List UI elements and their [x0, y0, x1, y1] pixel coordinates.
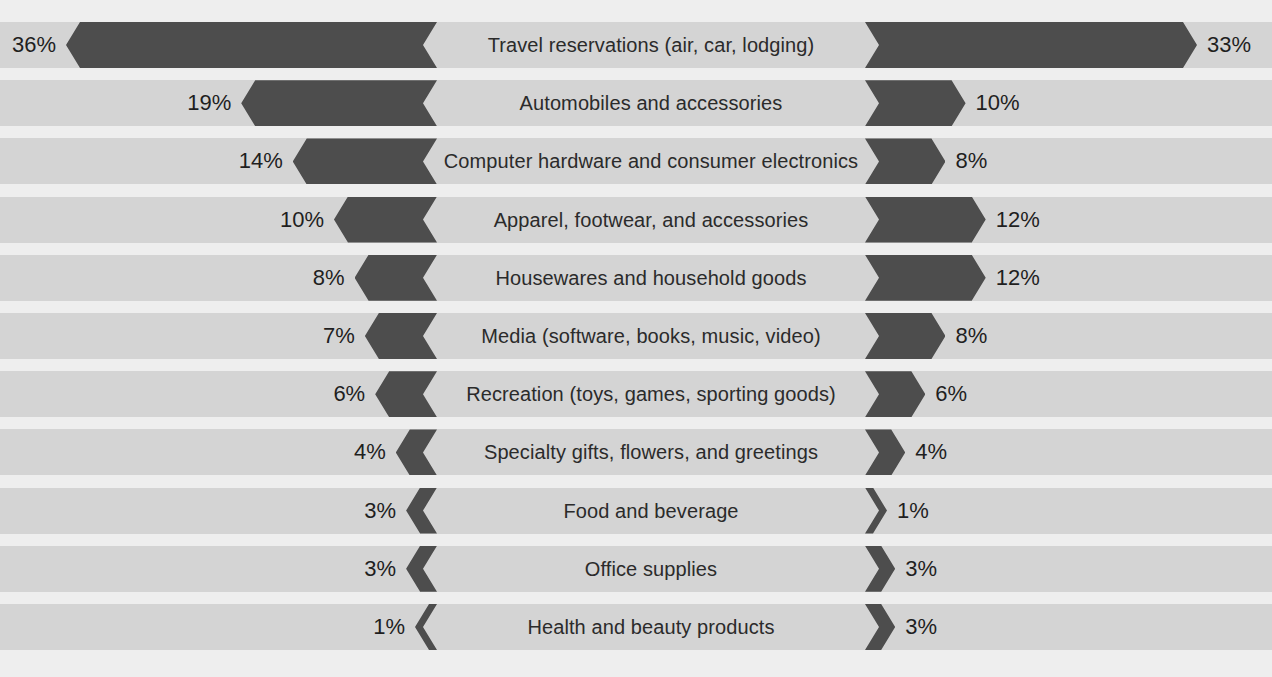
value-label-left: 3% [306, 488, 396, 534]
value-label-right: 10% [976, 80, 1066, 126]
value-label-left: 36% [0, 22, 56, 68]
value-label-right: 3% [905, 546, 995, 592]
bar-right [865, 80, 966, 126]
bar-left [293, 138, 437, 184]
value-label-left: 4% [296, 429, 386, 475]
chart-row: 8%12%Housewares and household goods [0, 255, 1272, 301]
chart-row: 7%8%Media (software, books, music, video… [0, 313, 1272, 359]
category-label: Recreation (toys, games, sporting goods) [437, 371, 865, 417]
value-label-right: 12% [996, 255, 1086, 301]
category-label: Specialty gifts, flowers, and greetings [437, 429, 865, 475]
bar-right [865, 22, 1197, 68]
value-label-left: 14% [193, 138, 283, 184]
category-label: Media (software, books, music, video) [437, 313, 865, 359]
value-label-right: 1% [897, 488, 987, 534]
chart-row: 19%10%Automobiles and accessories [0, 80, 1272, 126]
value-label-left: 6% [275, 371, 365, 417]
category-label: Travel reservations (air, car, lodging) [437, 22, 865, 68]
chart-row: 1%3%Health and beauty products [0, 604, 1272, 650]
value-label-right: 33% [1207, 22, 1272, 68]
bar-left [241, 80, 437, 126]
bar-right [865, 255, 986, 301]
value-label-left: 1% [315, 604, 405, 650]
value-label-left: 8% [255, 255, 345, 301]
value-label-left: 19% [141, 80, 231, 126]
value-label-right: 8% [955, 313, 1045, 359]
value-label-right: 8% [955, 138, 1045, 184]
value-label-left: 10% [234, 197, 324, 243]
category-label: Food and beverage [437, 488, 865, 534]
category-label: Automobiles and accessories [437, 80, 865, 126]
chart-row: 3%3%Office supplies [0, 546, 1272, 592]
category-label: Housewares and household goods [437, 255, 865, 301]
bar-left [334, 197, 437, 243]
bar-left [66, 22, 437, 68]
value-label-right: 4% [915, 429, 1005, 475]
category-label: Apparel, footwear, and accessories [437, 197, 865, 243]
chart-row: 4%4%Specialty gifts, flowers, and greeti… [0, 429, 1272, 475]
tornado-chart: 36%33%Travel reservations (air, car, lod… [0, 0, 1272, 677]
chart-row: 6%6%Recreation (toys, games, sporting go… [0, 371, 1272, 417]
value-label-left: 7% [265, 313, 355, 359]
value-label-left: 3% [306, 546, 396, 592]
category-label: Computer hardware and consumer electroni… [437, 138, 865, 184]
bar-right [865, 197, 986, 243]
category-label: Health and beauty products [437, 604, 865, 650]
category-label: Office supplies [437, 546, 865, 592]
value-label-right: 3% [905, 604, 995, 650]
chart-row: 10%12%Apparel, footwear, and accessories [0, 197, 1272, 243]
value-label-right: 6% [935, 371, 1025, 417]
value-label-right: 12% [996, 197, 1086, 243]
chart-row: 14%8%Computer hardware and consumer elec… [0, 138, 1272, 184]
chart-row: 36%33%Travel reservations (air, car, lod… [0, 22, 1272, 68]
chart-row: 3%1%Food and beverage [0, 488, 1272, 534]
